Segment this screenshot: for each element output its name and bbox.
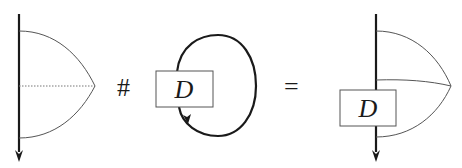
right-top-arc	[376, 31, 451, 86]
hash-operator: #	[117, 73, 130, 102]
equals-operator: =	[284, 72, 299, 101]
left-figure	[15, 14, 95, 162]
right-box-label: D	[358, 94, 378, 123]
diagram-canvas: # D = D	[0, 0, 462, 168]
left-bottom-arc	[19, 86, 95, 138]
left-top-arc	[19, 31, 95, 86]
right-middle-arc	[376, 80, 451, 86]
middle-figure: D	[156, 35, 256, 136]
right-figure: D	[340, 14, 451, 162]
middle-box-label: D	[174, 75, 194, 104]
